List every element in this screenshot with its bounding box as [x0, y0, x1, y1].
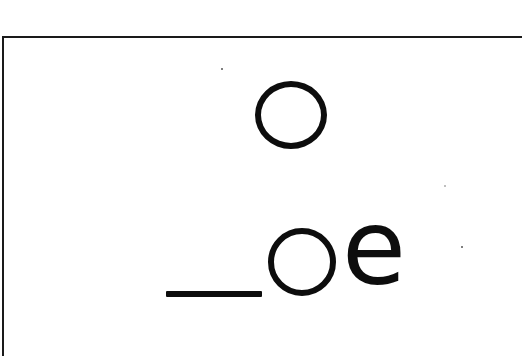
- scan-speck: [444, 185, 446, 187]
- pattern-letter-e: e: [342, 196, 406, 300]
- letter-o-glyph: [255, 81, 327, 149]
- scan-speck: [461, 246, 463, 248]
- flashcard-frame: [2, 36, 522, 356]
- pattern-letter-o: [268, 228, 336, 296]
- scan-speck: [221, 68, 223, 70]
- fill-in-blank-line: [166, 291, 262, 297]
